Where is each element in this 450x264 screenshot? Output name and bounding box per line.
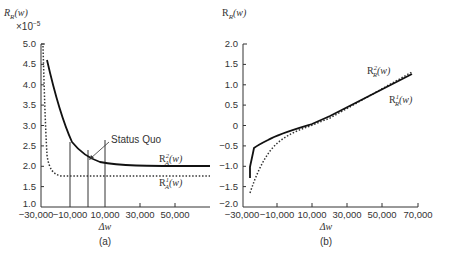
svg-text:4.0: 4.0 bbox=[23, 79, 36, 90]
svg-text:10,000: 10,000 bbox=[297, 209, 326, 220]
svg-text:30,000: 30,000 bbox=[332, 209, 361, 220]
svg-text:1.5: 1.5 bbox=[225, 58, 238, 69]
status-quo-label: Status Quo bbox=[111, 134, 161, 145]
svg-text:70,000: 70,000 bbox=[403, 209, 432, 220]
svg-text:1.0: 1.0 bbox=[23, 198, 36, 209]
status-quo-arrow bbox=[91, 142, 109, 158]
svg-text:−1.5: −1.5 bbox=[219, 181, 238, 192]
panel-a-xlabel: Δw bbox=[98, 221, 112, 232]
curve-RR1 bbox=[250, 72, 412, 193]
panel-b: RR(w) 2.0 1.5 1.0 0.5 0 −0.5 −1.0 −1.5 −… bbox=[219, 7, 432, 247]
label-RA2: R2A(w) bbox=[159, 152, 183, 166]
panel-a-caption: (a) bbox=[99, 236, 111, 247]
panel-b-caption: (b) bbox=[320, 236, 332, 247]
svg-text:3.0: 3.0 bbox=[23, 120, 36, 131]
svg-text:−30,000: −30,000 bbox=[19, 209, 54, 220]
svg-text:10,000: 10,000 bbox=[90, 209, 119, 220]
label-RR1: R1R(w) bbox=[389, 93, 413, 107]
svg-text:30,000: 30,000 bbox=[125, 209, 154, 220]
curve-RA2 bbox=[47, 60, 210, 166]
svg-text:2.5: 2.5 bbox=[23, 140, 36, 151]
svg-text:2.0: 2.0 bbox=[23, 160, 36, 171]
label-RR2: R2R(w) bbox=[367, 64, 391, 78]
svg-text:−10,000: −10,000 bbox=[53, 209, 88, 220]
panel-a-x-ticks: −30,000 −10,000 10,000 30,000 50,000 bbox=[19, 203, 190, 220]
svg-text:50,000: 50,000 bbox=[367, 209, 396, 220]
svg-text:−1.0: −1.0 bbox=[219, 160, 238, 171]
svg-text:4.5: 4.5 bbox=[23, 58, 36, 69]
panel-b-x-ticks: −30,000 −10,000 10,000 30,000 50,000 70,… bbox=[225, 203, 433, 220]
svg-text:−10,000: −10,000 bbox=[260, 209, 295, 220]
svg-text:−2.0: −2.0 bbox=[219, 198, 238, 209]
curve-RA1 bbox=[43, 46, 210, 176]
panel-a-ylabel: RR(w) bbox=[3, 7, 28, 21]
svg-text:−30,000: −30,000 bbox=[225, 209, 260, 220]
svg-text:50,000: 50,000 bbox=[160, 209, 189, 220]
svg-text:5.0: 5.0 bbox=[23, 38, 36, 49]
svg-text:1.0: 1.0 bbox=[225, 79, 238, 90]
svg-text:2.0: 2.0 bbox=[225, 38, 238, 49]
label-RA1: R1A(w) bbox=[159, 176, 183, 190]
svg-text:3.5: 3.5 bbox=[23, 99, 36, 110]
svg-text:1.5: 1.5 bbox=[23, 181, 36, 192]
panel-b-ylabel: RR(w) bbox=[222, 7, 247, 21]
panel-a: RR(w) ×10−5 5.0 4.5 4.0 3.5 3.0 2.5 2.0 … bbox=[3, 7, 210, 247]
figure: RR(w) ×10−5 5.0 4.5 4.0 3.5 3.0 2.5 2.0 … bbox=[0, 0, 450, 264]
panel-b-xlabel: Δw bbox=[319, 221, 333, 232]
panel-a-multiplier: ×10−5 bbox=[16, 20, 41, 32]
curve-RR2 bbox=[250, 74, 412, 178]
svg-text:0: 0 bbox=[233, 120, 238, 131]
svg-text:0.5: 0.5 bbox=[225, 99, 238, 110]
svg-text:−0.5: −0.5 bbox=[219, 140, 238, 151]
